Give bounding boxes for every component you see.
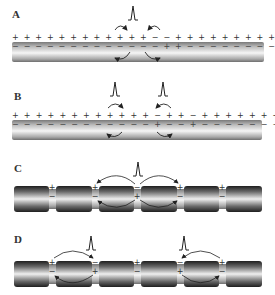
svg-text:+: +	[134, 258, 141, 267]
current-arrow-icon	[54, 251, 93, 258]
svg-text:−: −	[177, 192, 184, 201]
svg-text:−: −	[219, 192, 226, 201]
svg-text:−: −	[219, 267, 226, 276]
svg-text:−: −	[92, 258, 99, 267]
svg-text:+: +	[92, 267, 99, 276]
panel-c: +− +− −+ +− +−	[14, 162, 262, 212]
current-arrow-icon	[140, 176, 178, 184]
current-arrow-icon	[115, 26, 127, 30]
panel-d: +− −+ +− −+ +−	[14, 236, 262, 287]
action-potential-spike-icon	[86, 236, 96, 250]
figure: A B C D + + + +	[0, 0, 275, 295]
action-potential-spike-icon	[110, 82, 120, 96]
svg-text:−: −	[134, 267, 141, 276]
diagram-canvas: + + + + + + + + + + + + − − + + + + + + …	[0, 0, 275, 295]
svg-text:−: −	[49, 192, 56, 201]
action-potential-spike-icon	[179, 236, 189, 250]
svg-text:+: +	[177, 267, 184, 276]
svg-text:+: +	[49, 183, 56, 192]
current-arrow-icon	[156, 104, 171, 108]
action-potential-spike-icon	[133, 162, 143, 176]
outside-charges: + + + + + + + + + + + + − − + + + + + + …	[12, 33, 275, 42]
svg-text:−: −	[92, 192, 99, 201]
current-arrow-icon	[182, 251, 220, 258]
action-potential-spike-icon	[128, 6, 138, 20]
panel-b: + + + + + + + + + + + + − + + − + + + + …	[12, 82, 275, 140]
current-arrow-icon	[148, 26, 160, 30]
inside-charges: − − − − − − − − − − − − + − − + − − − − …	[12, 120, 275, 129]
svg-text:+: +	[219, 183, 226, 192]
svg-text:−: −	[49, 267, 56, 276]
svg-text:+: +	[92, 183, 99, 192]
outside-charges: + + + + + + + + + + + + − + + − + + + + …	[12, 111, 275, 120]
svg-text:+: +	[134, 192, 141, 201]
svg-text:+: +	[49, 258, 56, 267]
current-arrow-icon	[97, 176, 135, 184]
inside-charges: − − − − − − − − − − − − − + + − − − − − …	[12, 42, 275, 51]
action-potential-spike-icon	[158, 82, 168, 96]
svg-text:−: −	[177, 258, 184, 267]
svg-text:+: +	[177, 183, 184, 192]
current-arrow-icon	[108, 104, 123, 108]
svg-text:−: −	[134, 183, 141, 192]
svg-text:+: +	[219, 258, 226, 267]
panel-a: + + + + + + + + + + + + − − + + + + + + …	[12, 6, 275, 62]
